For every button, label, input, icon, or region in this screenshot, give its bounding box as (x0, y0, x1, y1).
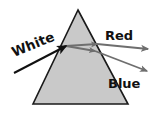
refracted-red-ray (97, 44, 148, 49)
prism-dispersion-diagram: White Red Blue (0, 0, 154, 114)
diagram-canvas: White Red Blue (0, 0, 154, 114)
label-red: Red (105, 28, 133, 43)
label-blue: Blue (108, 76, 141, 91)
